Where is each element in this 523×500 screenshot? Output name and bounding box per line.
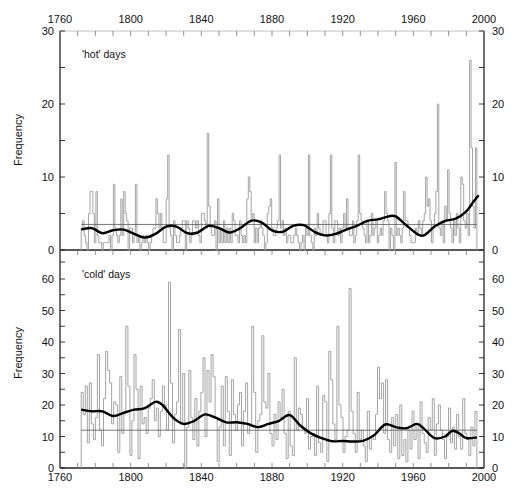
x-tick-label-top: 2000 (472, 13, 496, 25)
y-tick-label-bottom-right: 10 (492, 431, 504, 443)
y-tick-label-top-right: 30 (492, 25, 504, 37)
y-tick-label-bottom-right: 20 (492, 399, 504, 411)
y-tick-label-bottom-right: 60 (492, 273, 504, 285)
cold-days-annual-series (81, 282, 477, 468)
y-tick-label-bottom-right: 50 (492, 305, 504, 317)
chart-figure: 'hot' days 'cold' days 17601760180018001… (0, 0, 523, 500)
y-tick-label-bottom-right: 40 (492, 336, 504, 348)
y-tick-label-bottom-left: 60 (42, 273, 54, 285)
hot-days-panel: 'hot' days (81, 48, 479, 250)
x-tick-label-bottom: 1960 (401, 471, 425, 483)
y-tick-label-top-left: 10 (42, 171, 54, 183)
x-tick-label-bottom: 1920 (330, 471, 354, 483)
y-tick-label-top-left: 20 (42, 98, 54, 110)
x-tick-label-bottom: 1840 (189, 471, 213, 483)
y-tick-label-top-right: 0 (492, 244, 498, 256)
y-tick-label-bottom-left: 30 (42, 368, 54, 380)
y-tick-label-bottom-left: 20 (42, 399, 54, 411)
y-tick-label-top-left: 30 (42, 25, 54, 37)
y-tick-label-bottom-right: 30 (492, 368, 504, 380)
x-tick-label-bottom: 1800 (118, 471, 142, 483)
y-tick-label-bottom-right: 0 (492, 462, 498, 474)
x-tick-label-top: 1960 (401, 13, 425, 25)
hot-days-label: 'hot' days (82, 48, 126, 60)
hot-days-smoothed-line (81, 195, 479, 237)
axis-tick-labels: 1760176018001800184018401880188019201920… (42, 13, 505, 483)
y-tick-label-bottom-left: 50 (42, 305, 54, 317)
x-tick-label-top: 1880 (260, 13, 284, 25)
cold-days-label: 'cold' days (82, 268, 130, 280)
y-tick-label-top-right: 20 (492, 98, 504, 110)
cold-days-smoothed-line (81, 402, 477, 442)
y-tick-label-bottom-left: 40 (42, 336, 54, 348)
cold-days-panel: 'cold' days (81, 268, 477, 468)
x-tick-label-top: 1760 (48, 13, 72, 25)
x-tick-label-top: 1800 (118, 13, 142, 25)
hot-days-annual-series (81, 60, 477, 250)
x-tick-label-top: 1840 (189, 13, 213, 25)
y-axis-label-bottom: Frequency (12, 327, 24, 379)
y-axis-label-top: Frequency (12, 114, 24, 166)
y-tick-label-top-right: 10 (492, 171, 504, 183)
x-tick-label-bottom: 1880 (260, 471, 284, 483)
y-tick-label-bottom-left: 10 (42, 431, 54, 443)
x-tick-label-top: 1920 (330, 13, 354, 25)
y-tick-label-top-left: 0 (48, 244, 54, 256)
y-tick-label-bottom-left: 0 (48, 462, 54, 474)
